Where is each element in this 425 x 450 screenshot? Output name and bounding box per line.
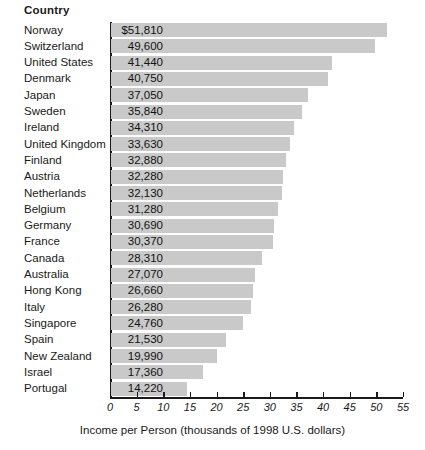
bar-value-label: 30,370 [113, 237, 163, 249]
x-axis-tick-label: 0 [107, 401, 113, 413]
x-axis-tick [323, 392, 324, 397]
country-label: Australia [24, 269, 69, 281]
bar-value-label: 19,990 [113, 351, 163, 363]
x-axis-tick-label: 10 [157, 401, 169, 413]
x-axis-tick-label: 35 [290, 401, 302, 413]
bar-value-label: 37,050 [113, 90, 163, 102]
table-row: Austria32,280 [0, 169, 425, 186]
country-label: Belgium [24, 204, 66, 216]
x-axis-tick [110, 392, 111, 397]
x-axis-tick-label: 15 [184, 401, 196, 413]
table-row: Denmark40,750 [0, 71, 425, 88]
bar-value-label: 26,660 [113, 286, 163, 298]
x-axis-tick [350, 392, 351, 397]
table-row: Norway$51,810 [0, 22, 425, 39]
country-label: Switzerland [24, 41, 83, 53]
table-row: United States41,440 [0, 55, 425, 72]
country-label: Sweden [24, 106, 66, 118]
country-label: Finland [24, 155, 62, 167]
bar-value-label: 26,280 [113, 302, 163, 314]
table-row: Germany30,690 [0, 218, 425, 235]
table-row: Japan37,050 [0, 87, 425, 104]
table-row: Switzerland49,600 [0, 38, 425, 55]
country-label: Hong Kong [24, 286, 82, 298]
x-axis-tick [403, 392, 404, 397]
x-axis-tick [243, 392, 244, 397]
table-row: Canada28,310 [0, 250, 425, 267]
x-axis-tick-label: 20 [210, 401, 222, 413]
bar-value-label: 49,600 [113, 41, 163, 53]
table-row: Finland32,880 [0, 152, 425, 169]
table-row: Ireland34,310 [0, 120, 425, 137]
bar-value-label: 21,530 [113, 334, 163, 346]
bar-value-label: 32,280 [113, 171, 163, 183]
country-label: Singapore [24, 318, 76, 330]
country-label: France [24, 237, 60, 249]
bar-value-label: 30,690 [113, 220, 163, 232]
country-label: Norway [24, 25, 63, 37]
table-row: Australia27,070 [0, 267, 425, 284]
bar-value-label: 32,130 [113, 188, 163, 200]
bar-value-label: 35,840 [113, 106, 163, 118]
country-label: Germany [24, 220, 71, 232]
x-axis-tick-label: 40 [317, 401, 329, 413]
column-header-country: Country [24, 4, 69, 16]
x-axis-tick [137, 392, 138, 397]
income-per-person-bar-chart: Country Norway$51,810Switzerland49,600Un… [0, 0, 425, 450]
x-axis-tick-label: 30 [264, 401, 276, 413]
bar-value-label: 28,310 [113, 253, 163, 265]
table-row: Hong Kong26,660 [0, 283, 425, 300]
country-label: New Zealand [24, 351, 92, 363]
table-row: Israel17,360 [0, 364, 425, 381]
country-label: Israel [24, 367, 52, 379]
table-row: Sweden35,840 [0, 104, 425, 121]
x-axis-tick [270, 392, 271, 397]
country-label: Portugal [24, 383, 67, 395]
bar-value-label: 27,070 [113, 269, 163, 281]
table-row: United Kingdom33,630 [0, 136, 425, 153]
country-label: Italy [24, 302, 45, 314]
table-row: Singapore24,760 [0, 315, 425, 332]
table-row: Portugal14,220 [0, 381, 425, 398]
table-row: Belgium31,280 [0, 201, 425, 218]
bar-value-label: 32,880 [113, 155, 163, 167]
x-axis-tick-label: 50 [370, 401, 382, 413]
bar-value-label: 40,750 [113, 74, 163, 86]
country-label: Ireland [24, 123, 59, 135]
x-axis-tick-label: 55 [397, 401, 409, 413]
country-label: Canada [24, 253, 64, 265]
x-axis-tick-label: 25 [237, 401, 249, 413]
bar-value-label: 24,760 [113, 318, 163, 330]
x-axis-tick-label: 5 [134, 401, 140, 413]
bar-value-label: 31,280 [113, 204, 163, 216]
bar-value-label: 41,440 [113, 57, 163, 69]
bar-value-label: 33,630 [113, 139, 163, 151]
country-label: Denmark [24, 74, 71, 86]
country-label: United States [24, 57, 93, 69]
x-axis-line [110, 397, 403, 399]
table-row: Spain21,530 [0, 332, 425, 349]
x-axis-caption: Income per Person (thousands of 1998 U.S… [0, 424, 425, 436]
table-row: Netherlands32,130 [0, 185, 425, 202]
x-axis-tick [296, 392, 297, 397]
country-label: Netherlands [24, 188, 86, 200]
bar-value-label: 34,310 [113, 123, 163, 135]
country-label: Austria [24, 171, 60, 183]
country-label: United Kingdom [24, 139, 106, 151]
bar-value-label: $51,810 [113, 25, 163, 37]
x-axis-tick [217, 392, 218, 397]
table-row: New Zealand19,990 [0, 348, 425, 365]
table-row: France30,370 [0, 234, 425, 251]
table-row: Italy26,280 [0, 299, 425, 316]
bar-value-label: 17,360 [113, 367, 163, 379]
x-axis-tick [376, 392, 377, 397]
x-axis-tick [163, 392, 164, 397]
country-label: Spain [24, 334, 53, 346]
x-axis-tick-label: 45 [344, 401, 356, 413]
country-label: Japan [24, 90, 55, 102]
x-axis-tick [190, 392, 191, 397]
